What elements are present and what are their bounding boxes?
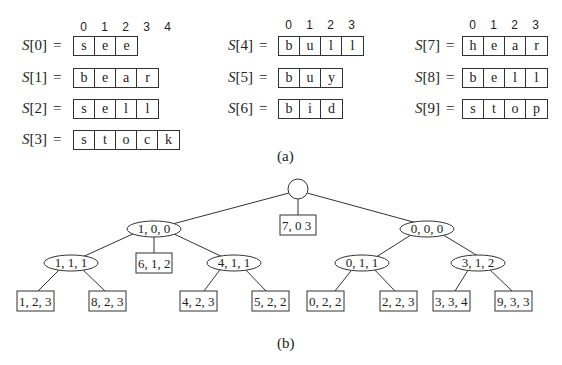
char-cell: i: [300, 100, 321, 118]
string-symbol: S: [415, 69, 423, 85]
string-label: S[7]=: [415, 37, 454, 54]
index-header-1: 01234: [73, 20, 178, 34]
leaf-node-8-2-3: 8, 2, 3: [89, 291, 126, 311]
index-label: 3: [341, 18, 362, 32]
char-cell: b: [279, 37, 300, 55]
index-label: 3: [136, 20, 157, 34]
leaf-node-3-3-4: 3, 3, 4: [433, 291, 470, 311]
leaf-node-0-2-2: 0, 2, 2: [307, 291, 344, 311]
svg-text:5, 2, 2: 5, 2, 2: [254, 294, 287, 309]
string-symbol: S: [228, 37, 236, 53]
char-cell: h: [463, 37, 484, 55]
string-symbol: S: [415, 37, 423, 53]
string-index: [3]: [30, 131, 48, 147]
char-cell: p: [526, 100, 547, 118]
string-index: [8]: [423, 69, 441, 85]
equals-sign: =: [259, 69, 267, 85]
char-cell: b: [463, 69, 484, 87]
char-cell: a: [505, 37, 526, 55]
char-cell: s: [74, 131, 95, 149]
string-index: [1]: [30, 69, 48, 85]
char-array: hear: [462, 36, 548, 56]
char-cell: o: [505, 100, 526, 118]
char-cell: e: [95, 37, 116, 55]
string-index: [9]: [423, 100, 441, 116]
leaf-node-1-2-3: 1, 2, 3: [17, 291, 54, 311]
char-array: buy: [278, 68, 343, 88]
char-array: bid: [278, 99, 343, 119]
string-label: S[8]=: [415, 69, 454, 86]
internal-node-3-1-2: 3, 1, 2: [451, 255, 505, 271]
char-cell: t: [484, 100, 505, 118]
equals-sign: =: [53, 37, 61, 53]
internal-node-1-0-0: 1, 0, 0: [127, 221, 181, 237]
string-label: S[5]=: [228, 69, 267, 86]
svg-text:8, 2, 3: 8, 2, 3: [91, 294, 124, 309]
char-cell: s: [74, 37, 95, 55]
char-cell: s: [74, 100, 95, 118]
internal-node-1-1-1: 1, 1, 1: [44, 255, 98, 271]
equals-sign: =: [53, 69, 61, 85]
char-array: bell: [462, 68, 548, 88]
index-label: 0: [73, 20, 94, 34]
char-cell: o: [116, 131, 137, 149]
svg-text:1, 0, 0: 1, 0, 0: [138, 221, 171, 236]
char-array: bear: [73, 68, 159, 88]
equals-sign: =: [446, 69, 454, 85]
string-symbol: S: [22, 69, 30, 85]
index-label: 2: [115, 20, 136, 34]
index-label: 4: [157, 20, 178, 34]
char-cell: s: [463, 100, 484, 118]
string-symbol: S: [415, 100, 423, 116]
char-cell: e: [95, 69, 116, 87]
internal-node-4-1-1: 4, 1, 1: [207, 255, 261, 271]
string-symbol: S: [228, 100, 236, 116]
char-cell: d: [321, 100, 342, 118]
equals-sign: =: [53, 131, 61, 147]
string-label: S[9]=: [415, 100, 454, 117]
leaf-node-4-2-3: 4, 2, 3: [180, 291, 217, 311]
string-symbol: S: [22, 37, 30, 53]
index-label: 2: [320, 18, 341, 32]
char-array: stop: [462, 99, 548, 119]
char-cell: u: [300, 37, 321, 55]
char-cell: l: [137, 100, 158, 118]
char-cell: b: [279, 100, 300, 118]
char-cell: c: [137, 131, 158, 149]
tree-edges: [38, 193, 512, 291]
svg-text:4, 2, 3: 4, 2, 3: [182, 294, 215, 309]
internal-node-0-1-1: 0, 1, 1: [335, 255, 389, 271]
svg-text:0, 1, 1: 0, 1, 1: [346, 255, 379, 270]
char-array: sell: [73, 99, 159, 119]
char-cell: t: [95, 131, 116, 149]
char-array: stock: [73, 130, 180, 150]
index-header-2: 0123: [278, 18, 362, 32]
char-cell: b: [74, 69, 95, 87]
string-symbol: S: [22, 131, 30, 147]
char-array: see: [73, 36, 138, 56]
char-cell: l: [321, 37, 342, 55]
svg-text:1, 2, 3: 1, 2, 3: [19, 294, 52, 309]
equals-sign: =: [259, 37, 267, 53]
leaf-node-7-0-3: 7, 0 3: [280, 215, 316, 235]
string-label: S[3]=: [22, 131, 61, 148]
char-cell: l: [505, 69, 526, 87]
char-array: bull: [278, 36, 364, 56]
equals-sign: =: [446, 100, 454, 116]
string-index: [2]: [30, 100, 48, 116]
char-cell: e: [95, 100, 116, 118]
char-cell: l: [342, 37, 363, 55]
char-cell: a: [116, 69, 137, 87]
svg-text:7, 0 3: 7, 0 3: [282, 218, 311, 233]
char-cell: b: [279, 69, 300, 87]
string-label: S[6]=: [228, 100, 267, 117]
equals-sign: =: [446, 37, 454, 53]
string-label: S[0]=: [22, 37, 61, 54]
internal-node-0-0-0: 0, 0, 0: [400, 221, 454, 237]
leaf-node-6-1-2: 6, 1, 2: [136, 253, 172, 273]
string-label: S[2]=: [22, 100, 61, 117]
svg-text:2, 2, 3: 2, 2, 3: [382, 294, 415, 309]
char-cell: e: [484, 69, 505, 87]
leaf-node-2-2-3: 2, 2, 3: [380, 291, 417, 311]
string-index: [6]: [236, 100, 254, 116]
